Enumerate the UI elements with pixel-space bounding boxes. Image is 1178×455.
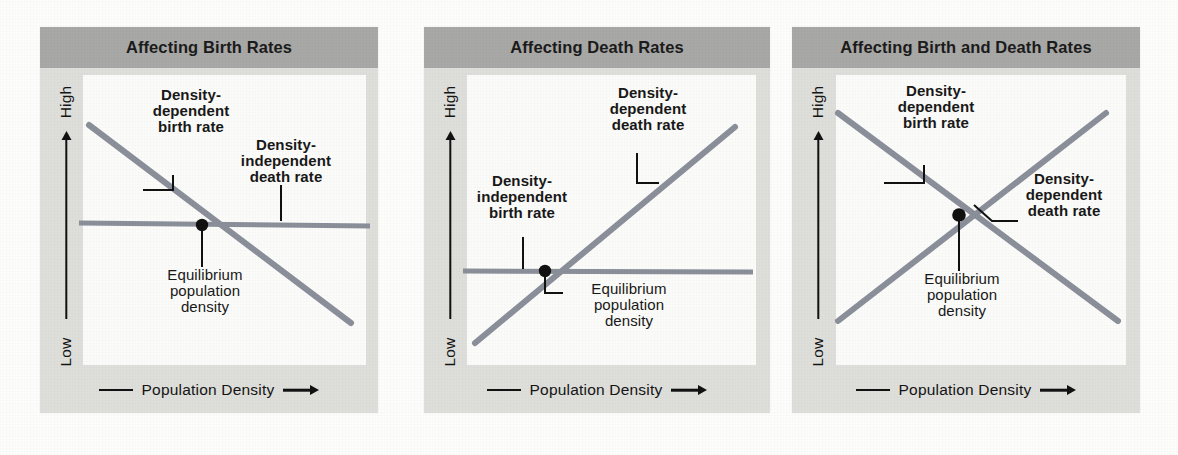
x-axis-dash	[487, 389, 521, 392]
line-density-independent-birth-rate	[463, 271, 753, 272]
arrow-up-icon	[813, 131, 824, 319]
panel-3-title: Affecting Birth and Death Rates	[840, 38, 1092, 57]
arrow-right-icon	[283, 385, 319, 396]
panel-3-label-equilibrium: Equilibrium population density	[892, 271, 1032, 320]
panel-2-label-equilibrium: Equilibrium population density	[559, 281, 699, 330]
panel-2-y-axis: High Low	[430, 75, 470, 371]
arrow-up-icon	[445, 131, 456, 319]
panel-2-title: Affecting Death Rates	[510, 38, 684, 57]
panel-3-y-low-label: Low	[809, 337, 827, 366]
panel-1-plot-area: Density- dependent birth rate Density- i…	[83, 75, 366, 365]
panel-1-label-equilibrium: Equilibrium population density	[135, 267, 275, 316]
panel-3-header: Affecting Birth and Death Rates	[792, 27, 1140, 68]
panel-2-x-label: Population Density	[530, 381, 663, 399]
panel-affecting-birth-rates: Affecting Birth Rates High Low	[40, 27, 378, 413]
panel-1-header: Affecting Birth Rates	[40, 27, 378, 68]
panel-3-y-high-label: High	[809, 86, 827, 119]
panel-3-y-axis: High Low	[798, 75, 838, 371]
equilibrium-point	[952, 208, 966, 222]
panel-affecting-birth-and-death-rates: Affecting Birth and Death Rates High Low	[792, 27, 1140, 413]
panel-3-x-label: Population Density	[899, 381, 1032, 399]
leader-death-rate	[637, 153, 659, 183]
panel-2-label-line2: Density- independent birth rate	[459, 173, 585, 222]
panel-2-x-axis: Population Density	[424, 375, 770, 405]
panel-1-y-high-label: High	[57, 86, 75, 119]
panel-3-plot-area: Density- dependent birth rate Density- d…	[836, 75, 1126, 365]
arrow-up-icon	[61, 131, 72, 319]
panel-1-x-label: Population Density	[142, 381, 275, 399]
panel-2-y-high-label: High	[441, 86, 459, 119]
panel-3-label-line1: Density- dependent birth rate	[876, 83, 996, 132]
equilibrium-point	[196, 219, 208, 231]
panel-3-body: High Low Density- dependent bir	[792, 75, 1140, 413]
x-axis-dash	[856, 389, 890, 392]
panel-1-body: High Low Density- dependent bir	[40, 75, 378, 413]
panel-1-label-line2: Density- independent death rate	[223, 137, 349, 186]
arrow-right-icon	[1040, 385, 1076, 396]
x-axis-dash	[99, 389, 133, 392]
panel-1-x-axis: Population Density	[40, 375, 378, 405]
panel-1-label-line1: Density- dependent birth rate	[131, 87, 251, 136]
panel-2-plot-area: Density- dependent death rate Density- i…	[467, 75, 756, 365]
panel-1-y-low-label: Low	[57, 337, 75, 366]
panel-affecting-death-rates: Affecting Death Rates High Low	[424, 27, 770, 413]
panel-2-header: Affecting Death Rates	[424, 27, 770, 68]
panel-1-title: Affecting Birth Rates	[126, 38, 292, 57]
panel-3-label-line2: Density- dependent death rate	[1008, 171, 1120, 220]
panel-2-body: High Low Density- dependent dea	[424, 75, 770, 413]
panel-3-x-axis: Population Density	[792, 375, 1140, 405]
panel-2-label-line1: Density- dependent death rate	[585, 85, 711, 134]
equilibrium-point	[539, 265, 551, 277]
arrow-right-icon	[671, 385, 707, 396]
panel-2-y-low-label: Low	[441, 337, 459, 366]
